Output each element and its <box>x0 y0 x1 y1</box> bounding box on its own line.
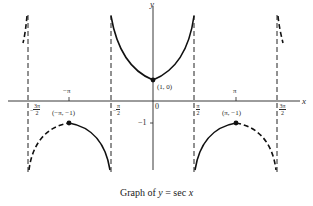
denominator: 2 <box>197 110 200 116</box>
curve-center-branch <box>111 16 194 80</box>
tick-label-neg-pi-2: − π2 <box>113 103 120 116</box>
denominator: 2 <box>281 110 284 116</box>
numerator: π <box>116 103 120 110</box>
y-axis-label: y <box>150 0 154 9</box>
denominator: 2 <box>117 110 120 116</box>
tick-label-3pi-2: 3π2 <box>279 103 286 116</box>
curve-right-lower-dashed <box>236 123 276 170</box>
tick-label-neg-3pi-2: − 3π2 <box>30 103 40 116</box>
caption-prefix: Graph of <box>120 187 158 198</box>
point-right-label: (π, −1) <box>222 110 241 117</box>
point-right <box>234 121 239 126</box>
chart-caption: Graph of y = sec x <box>0 187 313 198</box>
tick-label-pi: π <box>233 88 237 95</box>
caption-eq: = sec <box>163 187 189 198</box>
curve-left-upper-fragment <box>23 16 27 43</box>
curve-left-lower-dashed <box>29 123 69 170</box>
denominator: 2 <box>35 110 38 116</box>
point-left-label: (−π, −1) <box>52 110 75 117</box>
x-axis-label: x <box>302 97 306 106</box>
point-center <box>151 78 156 83</box>
curve-right-upper-fragment <box>278 16 283 43</box>
origin-label: 0 <box>155 103 159 111</box>
point-left <box>67 121 72 126</box>
tick-label-neg-one: −1 <box>138 119 147 127</box>
curve-left-lower-solid <box>69 123 110 170</box>
numerator: 3π <box>33 103 40 110</box>
tick-label-neg-pi: −π <box>63 88 70 95</box>
caption-x: x <box>189 187 193 198</box>
tick-label-pi-2: π2 <box>196 103 200 116</box>
numerator: π <box>196 103 200 110</box>
numerator: 3π <box>279 103 286 110</box>
curve-right-lower-solid <box>195 123 236 170</box>
point-center-label: (1, 0) <box>157 84 172 91</box>
